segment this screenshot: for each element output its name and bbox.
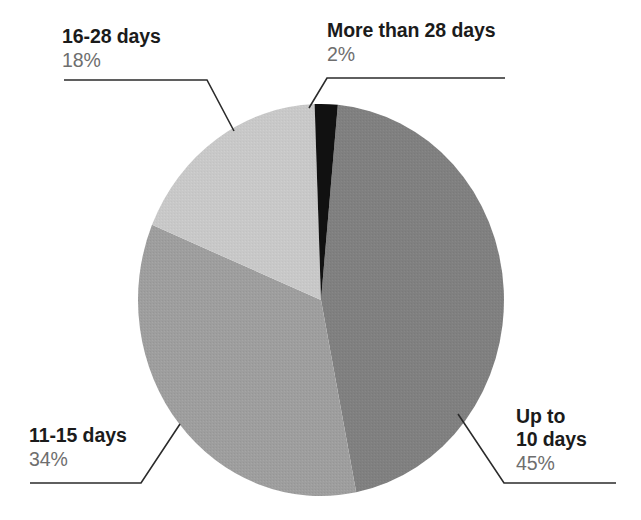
callout-title-up-to-10-days-line1: Up to: [516, 405, 587, 428]
callout-title-up-to-10-days-line2: 10 days: [516, 428, 587, 451]
callout-value-16-28-days: 18%: [62, 49, 161, 72]
callout-label-11-15-days: 11-15 days 34%: [29, 424, 127, 471]
callout-label-up-to-10-days: Up to 10 days 45%: [516, 405, 587, 475]
callout-title-11-15-days: 11-15 days: [29, 424, 127, 447]
leader-line-more-than-28: [309, 78, 505, 108]
callout-title-16-28-days: 16-28 days: [62, 25, 161, 48]
pie-slice-up-to-10-days[interactable]: [321, 105, 504, 493]
callout-value-more-than-28-days: 2%: [327, 43, 495, 66]
callout-value-up-to-10-days: 45%: [516, 452, 587, 475]
pie-chart-figure: 16-28 days 18% More than 28 days 2% 11-1…: [0, 0, 641, 520]
leader-line-16-28-days: [64, 80, 234, 131]
callout-label-more-than-28-days: More than 28 days 2%: [327, 19, 495, 66]
pie-slices: [138, 104, 504, 496]
callout-title-more-than-28-days: More than 28 days: [327, 19, 495, 42]
callout-value-11-15-days: 34%: [29, 448, 127, 471]
callout-label-16-28-days: 16-28 days 18%: [62, 25, 161, 72]
